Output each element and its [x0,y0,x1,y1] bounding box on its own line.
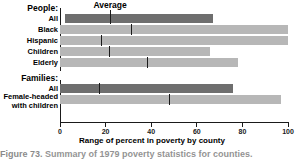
average-marker [99,83,100,94]
range-bar [60,47,210,56]
poverty-range-figure: Average 0 20 40 60 80 100 People:AllBlac… [0,0,304,160]
row-label-families-female-headed: Female-headedwith children [0,93,58,110]
figure-caption-text: Summary of 1979 poverty statistics for c… [45,149,253,159]
average-annotation-label: Average [94,0,127,10]
range-bar [60,25,288,34]
x-axis-line [60,122,289,123]
row-label-people-hispanic: Hispanic [27,37,58,46]
x-axis-title: Range of percent in poverty by county [0,136,304,145]
x-tick-label-40: 40 [147,127,155,136]
average-marker [169,94,170,105]
range-bar [60,95,281,104]
range-bar [60,36,288,45]
figure-number: Figure 73. [0,149,43,159]
group-label-people: People: [27,4,58,13]
row-label-people-all: All [48,15,58,24]
figure-caption: Figure 73. Summary of 1979 poverty stati… [0,148,304,160]
group-label-families: Families: [21,74,58,83]
average-marker [147,57,148,68]
range-bar [65,14,213,23]
x-tick-label-0: 0 [58,127,62,136]
average-marker [101,35,102,46]
range-bar [60,84,233,93]
x-tick-label-20: 20 [102,127,110,136]
row-label-people-black: Black [38,26,58,35]
range-bar [60,58,238,67]
row-label-line: with children [0,102,58,111]
x-tick-label-80: 80 [238,127,246,136]
x-tick-label-100: 100 [282,127,294,136]
row-label-people-elderly: Elderly [33,59,58,68]
average-marker [110,13,111,24]
y-axis-group-gap [59,71,62,80]
average-marker [109,46,110,57]
x-tick-label-60: 60 [193,127,201,136]
row-label-people-children: Children [28,48,58,57]
average-marker [131,24,132,35]
